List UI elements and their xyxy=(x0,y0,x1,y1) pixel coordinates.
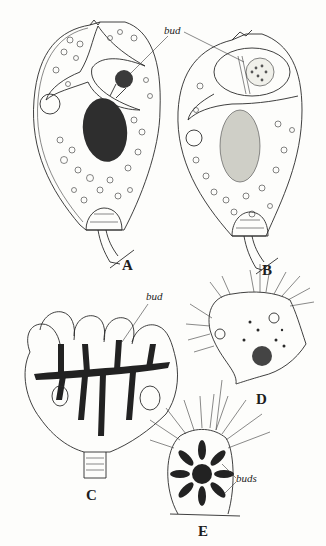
panel-label-c: C xyxy=(86,487,97,503)
panel-b-cell xyxy=(178,30,302,274)
panel-label-d: D xyxy=(256,391,267,407)
figure-canvas: A bud B xyxy=(0,0,326,546)
panel-d-cell xyxy=(186,264,314,384)
panel-c-colony xyxy=(25,312,177,478)
annotation-bud-c: bud xyxy=(146,290,163,302)
annotation-buds-e: buds xyxy=(236,472,257,484)
annotation-bud-ab: bud xyxy=(164,24,181,36)
panel-label-a: A xyxy=(122,257,133,273)
panel-label-b: B xyxy=(262,262,272,278)
panel-e-cell xyxy=(150,380,270,516)
panel-a-cell xyxy=(33,20,160,268)
panel-label-e: E xyxy=(198,523,208,539)
